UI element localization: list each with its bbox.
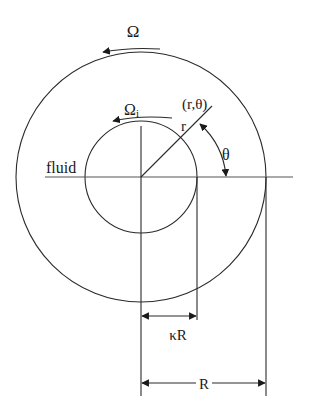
angle-label: θ	[222, 146, 230, 163]
inner-rotation-arrow	[113, 117, 172, 121]
cylinder-diagram: Ω Ωi (r,θ) r θ fluid κR R	[0, 0, 315, 413]
fluid-label: fluid	[46, 159, 76, 176]
inner-rotation-label: Ωi	[124, 101, 139, 119]
radius-label: r	[181, 118, 186, 134]
point-label: (r,θ)	[182, 96, 207, 113]
outer-rotation-label: Ω	[127, 22, 140, 41]
outer-radius-dim-label: R	[199, 376, 209, 392]
inner-radius-dim-label: κR	[169, 327, 187, 343]
outer-rotation-arrow	[103, 48, 160, 52]
